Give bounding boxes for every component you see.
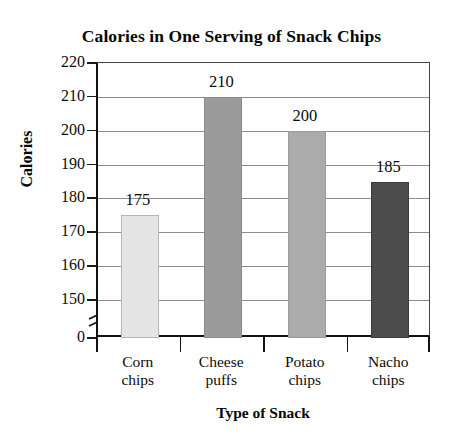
y-axis-tick-label: 150 bbox=[39, 291, 85, 307]
x-axis-tick bbox=[96, 337, 98, 352]
x-axis-tick-label-line: chips bbox=[93, 371, 183, 389]
bar-value-label: 200 bbox=[275, 108, 335, 125]
x-axis-tick-label: Cornchips bbox=[93, 353, 183, 390]
y-axis-tick bbox=[87, 299, 96, 301]
y-axis-tick bbox=[87, 62, 96, 64]
x-axis-tick-label-line: Cheese bbox=[176, 353, 266, 371]
x-axis-tick-label-line: Potato bbox=[260, 353, 350, 371]
bar-value-label: 210 bbox=[191, 74, 251, 91]
x-axis-tick-label-line: chips bbox=[260, 371, 350, 389]
y-axis-tick bbox=[87, 337, 96, 339]
y-axis-tick-label: 0 bbox=[39, 329, 85, 345]
x-axis-tick-label: Potatochips bbox=[260, 353, 350, 390]
y-axis-tick bbox=[87, 265, 96, 267]
bar bbox=[204, 97, 242, 338]
y-axis-tick-label: 180 bbox=[39, 189, 85, 205]
y-axis-tick-label: 200 bbox=[39, 122, 85, 138]
x-axis-ticks bbox=[96, 337, 430, 353]
gridline bbox=[98, 97, 429, 98]
bar-value-label: 175 bbox=[108, 192, 168, 209]
x-axis-title: Type of Snack bbox=[96, 404, 430, 422]
x-axis-tick-label: Cheesepuffs bbox=[176, 353, 266, 390]
y-axis-title: Calories bbox=[18, 109, 36, 209]
bar bbox=[121, 215, 159, 338]
bar bbox=[288, 131, 326, 338]
bar-chart: Calories in One Serving of Snack Chips C… bbox=[0, 0, 463, 439]
x-axis-tick-label-line: chips bbox=[343, 371, 433, 389]
y-axis-tick-label: 170 bbox=[39, 223, 85, 239]
x-axis-tick bbox=[180, 337, 182, 352]
y-axis-tick-label: 220 bbox=[39, 54, 85, 70]
x-axis-tick bbox=[263, 337, 265, 352]
y-axis-tick-label: 160 bbox=[39, 257, 85, 273]
y-axis-tick-label: 210 bbox=[39, 88, 85, 104]
gridline bbox=[98, 131, 429, 132]
x-axis-tick bbox=[428, 337, 430, 352]
y-axis-tick-label: 190 bbox=[39, 156, 85, 172]
y-axis-tick bbox=[87, 197, 96, 199]
y-axis-tick bbox=[87, 164, 96, 166]
x-axis-tick-label-line: Corn bbox=[93, 353, 183, 371]
chart-title: Calories in One Serving of Snack Chips bbox=[0, 26, 463, 47]
y-axis-tick bbox=[87, 96, 96, 98]
x-axis-tick-label-line: puffs bbox=[176, 371, 266, 389]
x-axis-tick-label-line: Nacho bbox=[343, 353, 433, 371]
y-axis-tick bbox=[87, 130, 96, 132]
bar-value-label: 185 bbox=[358, 159, 418, 176]
y-axis-tick bbox=[87, 231, 96, 233]
x-axis-tick-label: Nachochips bbox=[343, 353, 433, 390]
x-axis-tick bbox=[347, 337, 349, 352]
bar bbox=[371, 182, 409, 339]
